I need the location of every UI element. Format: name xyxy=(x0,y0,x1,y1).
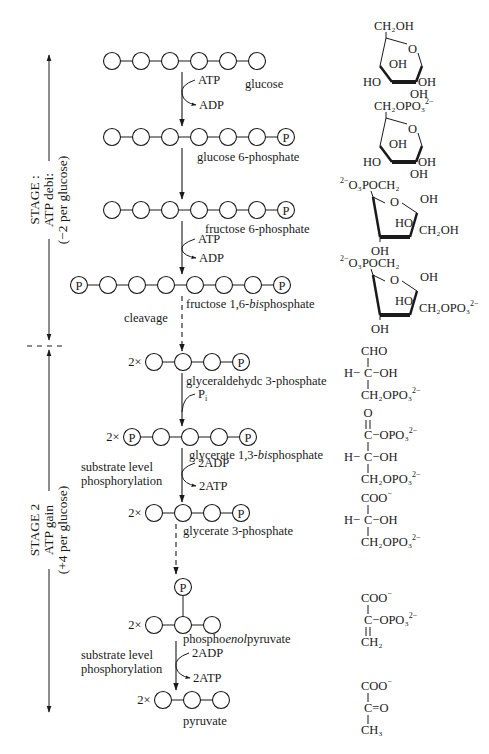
annotation-cleavage: cleavage xyxy=(124,311,168,325)
intermediate-label: pyruvate xyxy=(183,714,227,728)
formula-group: CH₂OPO₃2− xyxy=(361,386,421,402)
cofactor-in: ATP xyxy=(198,73,220,87)
carbon-atom xyxy=(155,692,172,709)
svg-text:O: O xyxy=(408,42,417,56)
cofactor-in: 2ADP xyxy=(198,456,229,470)
substituent: CH₂OPO₃2− xyxy=(419,299,479,315)
phosphate-symbol: P xyxy=(245,431,252,445)
stage-bracket-2: STAGE 2ATP gain(+4 per glucose) xyxy=(27,350,70,712)
substituent: 2−O₃POCH₂ xyxy=(340,254,400,270)
f16bp-structure: 2−O₃POCH₂OOHHOCH₂OPO₃2−OH xyxy=(340,254,479,336)
stoichiometry-label: 2× xyxy=(128,355,141,369)
intermediate-glucose-6-phosphate: Pglucose 6-phosphate xyxy=(104,129,300,165)
stage-label: STAGE :ATP debi:(−2 per glucose) xyxy=(27,156,70,245)
carbon-atom xyxy=(191,53,208,70)
intermediate-label: glyceraldehydc 3-phosphate xyxy=(186,374,327,388)
cofactor-out: ADP xyxy=(199,251,224,265)
formula-group: C−OPO₃2− xyxy=(364,611,418,627)
substituent: CH₂OH xyxy=(419,223,459,237)
carbon-atom xyxy=(162,129,179,146)
substituent: 2−O₃POCH₂ xyxy=(340,176,400,192)
formula-group: O xyxy=(363,406,372,420)
3pg-structure: COO−H−C−OHCH₂OPO₃2− xyxy=(344,489,421,549)
intermediate-phosphoenolpyruvate: 2×Pphosphoenolpyruvate xyxy=(128,579,291,647)
stage-label-line: (−2 per glucose) xyxy=(55,156,70,245)
formula-group: C−OH xyxy=(364,450,397,464)
intermediate-fructose-6-phosphate: Pfructose 6-phosphate xyxy=(104,202,310,237)
svg-text:OH: OH xyxy=(389,57,407,71)
carbon-atom xyxy=(184,692,201,709)
intermediate-label: fructose 6-phosphate xyxy=(205,222,310,236)
phosphate-symbol: P xyxy=(279,279,286,293)
intermediate-fructose-1-6-bisphosphate: PPfructose 1,6-bisphosphate xyxy=(71,277,315,312)
stoichiometry-label: 2× xyxy=(106,430,119,444)
formula-group: COO− xyxy=(361,589,392,605)
substituent: CH₂OPO₃2− xyxy=(374,97,434,113)
formula-group: CH₂OPO₃2− xyxy=(361,533,421,549)
structural-formulas: CH₂OHOOHHOOHOHCH₂OPO₃2−OOHHOOHOH2−O₃POCH… xyxy=(340,19,479,737)
formula-group: C=O xyxy=(364,701,388,715)
cofactor-gapdh: Pi xyxy=(182,387,208,412)
annotation-substrate-level-2: substrate level xyxy=(81,648,153,662)
stage-label-line: (+4 per glucose) xyxy=(55,486,70,575)
carbon-atom xyxy=(245,277,262,294)
svg-text:HO: HO xyxy=(363,155,381,169)
f6p-structure: 2−O₃POCH₂OOHHOCH₂OHOH xyxy=(340,176,459,258)
stage-label-line: ATP gain xyxy=(41,505,56,555)
carbon-atom xyxy=(249,129,266,146)
carbon-atom xyxy=(204,354,221,371)
svg-text:HO: HO xyxy=(395,216,413,230)
intermediate-label: fructose 1,6-bisphosphate xyxy=(186,297,315,311)
formula-group: C−OPO₃2− xyxy=(364,426,418,442)
stage-brackets: STAGE :ATP debi:(−2 per glucose)STAGE 2A… xyxy=(27,55,70,712)
cofactor-out: 2ATP xyxy=(193,671,222,685)
carbon-atom xyxy=(104,53,121,70)
gap-structure: CHOH−C−OHCH₂OPO₃2− xyxy=(344,344,421,402)
stage-label: STAGE 2ATP gain(+4 per glucose) xyxy=(27,486,70,575)
svg-text:OH: OH xyxy=(389,137,407,151)
formula-group: C−OH xyxy=(364,366,397,380)
phosphate-symbol: P xyxy=(129,431,136,445)
intermediate-glucose: glucose xyxy=(104,53,284,92)
svg-text:H−: H− xyxy=(344,513,360,527)
intermediate-glycerate-3-phosphate: 2×Pglycerate 3-phosphate xyxy=(128,505,293,539)
annotation-substrate-level-1: phosphorylation xyxy=(81,474,163,488)
g6p-structure: CH₂OPO₃2−OOHHOOHOH xyxy=(363,97,436,181)
formula-group: CH₂ xyxy=(361,635,383,649)
stage-label-line: STAGE 2 xyxy=(27,504,42,557)
stage-bracket-1: STAGE :ATP debi:(−2 per glucose) xyxy=(27,55,70,340)
carbon-atom xyxy=(100,277,117,294)
carbon-atom xyxy=(220,53,237,70)
carbon-atom xyxy=(216,277,233,294)
carbon-atom xyxy=(175,505,192,522)
annotation-substrate-level-2: phosphorylation xyxy=(81,662,163,676)
annotation-substrate-level-1: substrate level xyxy=(81,460,153,474)
formula-group: C−OH xyxy=(364,513,397,527)
cofactor-pk: 2ADP2ATP xyxy=(176,646,224,685)
stage-label-line: STAGE : xyxy=(27,175,42,225)
svg-text:OH: OH xyxy=(410,167,428,181)
carbon-atom xyxy=(175,617,192,634)
formula-group: CH₂OPO₃2− xyxy=(361,470,421,486)
svg-text:OH: OH xyxy=(371,322,389,336)
stage-label-line: ATP debi: xyxy=(41,173,56,227)
intermediate-glyceraldehyde-3-phosphate: 2×Pglyceraldehydc 3-phosphate xyxy=(128,354,327,389)
carbon-atom xyxy=(133,129,150,146)
stoichiometry-label: 2× xyxy=(137,693,150,707)
carbon-atom xyxy=(162,202,179,219)
carbon-atom xyxy=(162,53,179,70)
intermediate-pyruvate: 2×pyruvate xyxy=(137,692,229,729)
intermediate-label: glucose xyxy=(245,77,284,91)
carbon-atom xyxy=(187,277,204,294)
svg-text:O: O xyxy=(390,273,399,287)
carbon-atom xyxy=(146,354,163,371)
stoichiometry-label: 2× xyxy=(128,618,141,632)
carbon-atom xyxy=(191,129,208,146)
svg-text:HO: HO xyxy=(363,75,381,89)
reaction-arrows xyxy=(176,72,182,690)
svg-text:H−: H− xyxy=(344,366,360,380)
cofactor-in: ATP xyxy=(198,232,220,246)
phosphate-symbol: P xyxy=(238,356,245,370)
carbon-atom xyxy=(220,129,237,146)
carbon-atom xyxy=(104,129,121,146)
